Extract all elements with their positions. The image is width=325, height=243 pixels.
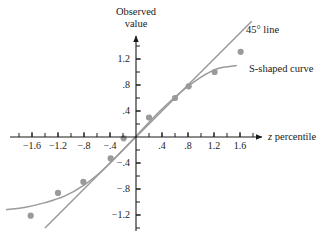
x-axis-tick-label: .4 xyxy=(151,140,173,152)
data-point xyxy=(121,135,127,141)
x-axis-tick-label: −1.2 xyxy=(47,140,69,152)
chart-canvas xyxy=(0,0,325,243)
data-point xyxy=(55,190,61,196)
y-axis-tick-label: .8 xyxy=(102,79,130,91)
qq-plot-chart: Observed value z percentile 45° line S-s… xyxy=(0,0,325,243)
y-axis-title-line2: value xyxy=(125,18,148,29)
data-point xyxy=(186,83,192,89)
x-axis-tick-label: −.8 xyxy=(73,140,95,152)
y-axis-tick-label: .4 xyxy=(102,105,130,117)
data-point xyxy=(146,114,152,120)
x-axis-title-rest: percentile xyxy=(272,131,316,142)
data-point xyxy=(172,95,178,101)
x-axis-tick-label: 1.2 xyxy=(203,140,225,152)
legend-label-s-shaped-curve: S-shaped curve xyxy=(249,63,313,75)
data-point xyxy=(80,179,86,185)
y-axis-tick-label: −.8 xyxy=(102,183,130,195)
data-point xyxy=(212,69,218,75)
forty-five-degree-line xyxy=(45,21,252,228)
y-axis-title-line1: Observed xyxy=(116,6,156,17)
y-axis-tick-label: −.4 xyxy=(102,157,130,169)
data-point xyxy=(238,49,244,55)
x-axis-title: z percentile xyxy=(268,131,316,143)
y-axis-tick-label: 1.2 xyxy=(102,53,130,65)
data-point xyxy=(28,213,34,219)
legend-label-45-degree-line: 45° line xyxy=(246,24,279,36)
x-axis-tick-label: .8 xyxy=(177,140,199,152)
x-axis-tick-label: −1.6 xyxy=(21,140,43,152)
y-axis-title: Observed value xyxy=(105,6,167,30)
x-axis-tick-label: 1.6 xyxy=(229,140,251,152)
x-axis-tick-label: −.4 xyxy=(99,140,121,152)
y-axis-tick-label: −1.2 xyxy=(102,209,130,221)
